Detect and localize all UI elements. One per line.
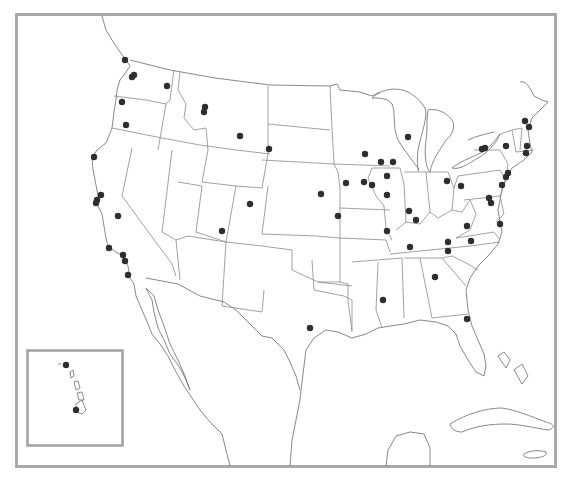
location-marker	[503, 143, 509, 149]
location-marker	[413, 217, 419, 223]
coastline	[92, 16, 553, 466]
location-marker	[115, 213, 121, 219]
location-marker	[93, 200, 99, 206]
location-marker	[407, 244, 413, 250]
location-marker	[369, 182, 375, 188]
location-marker	[307, 325, 313, 331]
location-marker	[390, 159, 396, 165]
location-marker	[247, 201, 253, 207]
location-marker	[106, 245, 112, 251]
state-boundaries	[112, 70, 534, 332]
location-marker	[378, 159, 384, 165]
location-marker	[445, 239, 451, 245]
location-marker	[266, 146, 272, 152]
location-marker	[444, 178, 450, 184]
hawaii-islands	[58, 364, 86, 414]
location-marker	[499, 182, 505, 188]
location-marker	[464, 316, 470, 322]
location-marker	[318, 191, 324, 197]
location-marker	[63, 362, 69, 368]
location-marker	[122, 57, 128, 63]
location-marker	[335, 213, 341, 219]
location-marker	[458, 183, 464, 189]
location-marker	[384, 192, 390, 198]
location-marker	[432, 274, 438, 280]
location-marker	[445, 248, 451, 254]
location-marker	[237, 133, 243, 139]
location-marker	[468, 238, 474, 244]
location-marker	[362, 151, 368, 157]
location-marker	[125, 272, 131, 278]
location-marker	[464, 223, 470, 229]
location-marker	[164, 83, 170, 89]
location-marker	[405, 134, 411, 140]
location-marker	[131, 72, 137, 78]
location-marker	[523, 150, 529, 156]
location-marker	[361, 179, 367, 185]
hawaii-inset-frame	[28, 351, 123, 446]
location-marker	[380, 297, 386, 303]
location-marker	[488, 200, 494, 206]
location-marker	[119, 99, 125, 105]
location-marker	[406, 208, 412, 214]
location-marker	[503, 174, 509, 180]
location-marker	[201, 109, 207, 115]
location-marker	[384, 228, 390, 234]
location-marker	[526, 124, 532, 130]
location-marker	[122, 258, 128, 264]
location-marker	[73, 407, 79, 413]
location-marker	[482, 145, 488, 151]
location-marker	[219, 228, 225, 234]
map-border	[17, 15, 556, 467]
location-marker	[524, 143, 530, 149]
location-marker	[497, 221, 503, 227]
location-marker	[120, 252, 126, 258]
location-marker	[384, 173, 390, 179]
location-marker	[123, 122, 129, 128]
location-marker	[343, 180, 349, 186]
location-marker	[91, 154, 97, 160]
location-marker	[98, 192, 104, 198]
us-map	[0, 0, 573, 481]
location-marker	[522, 118, 528, 124]
